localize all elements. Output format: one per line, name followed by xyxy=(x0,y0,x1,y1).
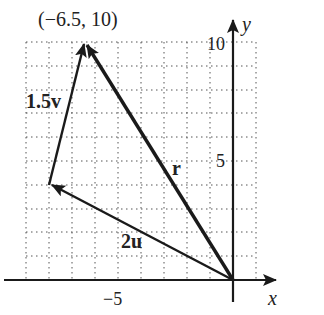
axes xyxy=(4,20,276,302)
label-r: r xyxy=(172,157,181,179)
vector-2u xyxy=(52,185,233,280)
label-2u: 2u xyxy=(121,230,142,252)
y-axis-label: y xyxy=(240,13,251,36)
y-tick-5: 5 xyxy=(216,151,225,171)
vector-r xyxy=(87,45,233,280)
vector-1-5v xyxy=(49,44,84,185)
point-label: (−6.5, 10) xyxy=(38,8,118,31)
y-tick-10: 10 xyxy=(207,34,225,54)
x-tick-minus-5: −5 xyxy=(103,289,122,309)
vector-diagram: (−6.5, 10) 10 y 1.5v 5 r 2u −5 x xyxy=(0,0,324,315)
x-axis-label: x xyxy=(267,287,277,309)
label-1-5v: 1.5v xyxy=(26,90,61,112)
